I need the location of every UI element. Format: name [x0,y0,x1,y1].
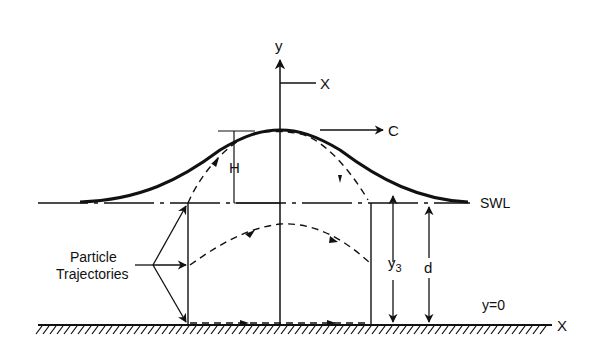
wave-profile [80,130,468,202]
particle-pointer-arrows [135,206,186,322]
particle-label-line2: Trajectories [56,266,129,282]
swl-label: SWL [480,195,511,211]
celerity-label: C [388,122,399,139]
sea-bed [36,325,552,334]
particle-label-line1: Particle [70,249,117,265]
y3-label: y3 [388,254,402,274]
moving-x-label: X [320,75,330,92]
trajectory-surface [188,131,368,203]
wave-height-dimension [218,131,280,203]
bottom-equation-label: y=0 [482,297,505,313]
trajectory-surface-arrow-left [211,156,221,167]
trajectory-surface-arrow-right [338,175,342,183]
solitary-wave-diagram: y X C SWL H Particle Trajecto [0,0,593,355]
depth-label: d [424,259,432,276]
trajectory-mid-arrow-right [329,236,338,243]
wave-height-label: H [229,159,240,176]
y-axis-label: y [275,37,283,54]
bottom-x-label: X [557,317,567,334]
trajectory-mid-arrow-left [245,230,255,238]
